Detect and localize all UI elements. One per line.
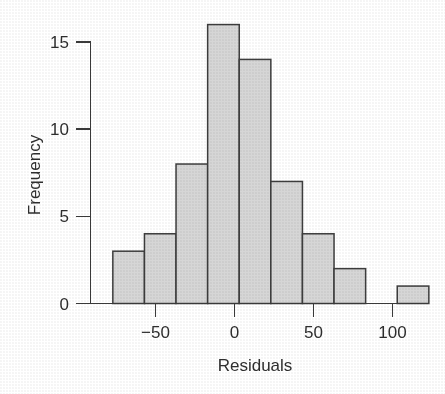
histogram-bar xyxy=(176,164,208,303)
y-tick-label: 10 xyxy=(50,120,69,139)
histogram-bar xyxy=(302,234,334,304)
y-tick-labels: 051015 xyxy=(50,33,69,314)
histogram-bar xyxy=(239,59,271,303)
y-tick-label: 0 xyxy=(60,295,69,314)
y-axis-title: Frequency xyxy=(25,134,44,215)
x-tick-label: 50 xyxy=(304,323,323,342)
x-axis xyxy=(76,304,420,318)
x-axis-title: Residuals xyxy=(218,356,293,375)
x-tick-label: −50 xyxy=(141,323,170,342)
y-tick-label: 15 xyxy=(50,33,69,52)
histogram-bar xyxy=(208,25,240,304)
x-tick-labels: −50050100 xyxy=(141,323,407,342)
histogram-bar xyxy=(271,181,303,303)
histogram-bar xyxy=(113,251,145,303)
histogram-bar xyxy=(397,286,429,303)
histogram-bar xyxy=(144,234,176,304)
x-tick-label: 100 xyxy=(378,323,406,342)
y-tick-label: 5 xyxy=(60,207,69,226)
y-axis xyxy=(76,42,91,304)
residuals-histogram-plot: 051015 −50050100 Residuals Frequency xyxy=(0,0,445,394)
x-tick-label: 0 xyxy=(230,323,239,342)
histogram-figure: 051015 −50050100 Residuals Frequency xyxy=(0,0,445,394)
histogram-bar xyxy=(334,269,366,304)
bars-group xyxy=(113,25,429,304)
